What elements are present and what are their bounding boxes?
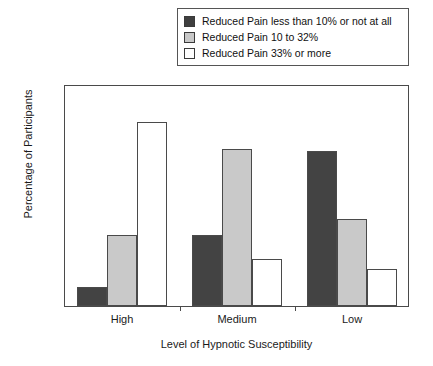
bar-low-series-2 bbox=[367, 269, 397, 306]
bar-medium-series-2 bbox=[252, 259, 282, 306]
y-axis-label: Percentage of Participants bbox=[22, 54, 34, 254]
bar-series-container bbox=[65, 86, 408, 306]
bar-low-series-1 bbox=[337, 219, 367, 306]
x-tick-label-low: Low bbox=[342, 313, 362, 325]
bar-medium-series-0 bbox=[192, 235, 222, 307]
x-tick-mark bbox=[295, 306, 296, 311]
chart-axes-frame: 01020304050607080 HighMediumLow bbox=[64, 85, 409, 307]
x-tick-label-medium: Medium bbox=[217, 313, 256, 325]
bar-high-series-0 bbox=[77, 287, 107, 306]
bar-high-series-2 bbox=[137, 122, 167, 306]
x-tick-mark bbox=[180, 306, 181, 311]
bar-high-series-1 bbox=[107, 235, 137, 307]
x-tick-label-high: High bbox=[111, 313, 134, 325]
x-axis-label: Level of Hypnotic Susceptibility bbox=[64, 338, 409, 350]
chart-plot-area: Percentage of Participants 0102030405060… bbox=[0, 0, 433, 366]
bar-low-series-0 bbox=[307, 151, 337, 306]
bar-medium-series-1 bbox=[222, 149, 252, 306]
